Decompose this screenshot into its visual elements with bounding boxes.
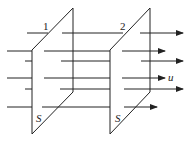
velocity-label: u: [168, 71, 174, 83]
plane-1-label: 1: [43, 20, 49, 32]
plane-1-area-label: S: [36, 112, 42, 124]
flow-diagram: 1 2 S S u: [0, 0, 186, 141]
flow-lines: [7, 33, 183, 107]
plane-2-area-label: S: [115, 112, 121, 124]
plane-2-label: 2: [120, 20, 126, 32]
